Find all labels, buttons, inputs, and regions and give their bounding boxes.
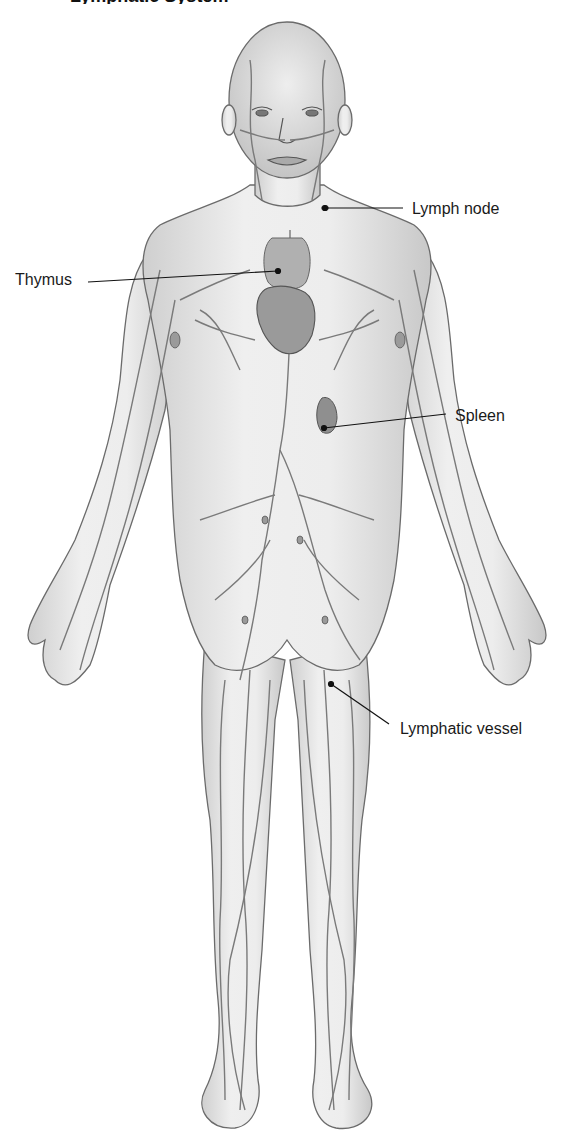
thymus-organ xyxy=(264,238,310,290)
body-silhouette xyxy=(28,22,546,1129)
label-spleen: Spleen xyxy=(455,407,505,425)
label-lymphatic-vessel: Lymphatic vessel xyxy=(400,720,522,738)
label-thymus: Thymus xyxy=(15,271,72,289)
body-illustration xyxy=(0,0,574,1146)
label-lymph-node: Lymph node xyxy=(412,200,499,218)
